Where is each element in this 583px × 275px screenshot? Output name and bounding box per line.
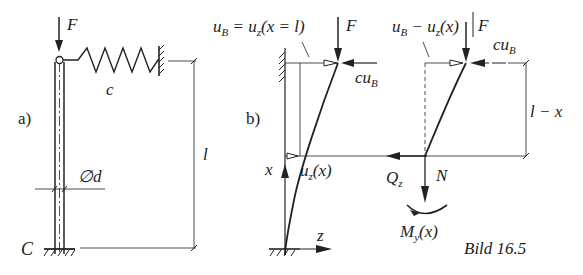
deflection-curve	[285, 63, 338, 255]
force-label-a: F	[66, 15, 78, 34]
moment-arrow-icon	[407, 205, 447, 216]
spring-force-arrow-icon	[470, 59, 485, 67]
diameter-label: ∅d	[78, 167, 102, 186]
fixed-support-icon	[269, 245, 332, 256]
diagram-canvas: F c l a)	[0, 0, 583, 275]
displacement-arrow-icon	[324, 60, 337, 66]
segment-length-label: l − x	[530, 102, 563, 121]
force-arrow-icon	[334, 17, 342, 62]
part-b-label: b)	[246, 109, 260, 128]
figure-caption: Bild 16.5	[464, 239, 526, 258]
hinge-icon	[56, 57, 63, 64]
x-axis-arrow-icon	[281, 164, 289, 178]
top-left-annotation: uB = uz(x = l)	[213, 17, 305, 38]
deflection-arrow-icon	[287, 153, 298, 159]
displacement-arrow-icon	[450, 60, 463, 66]
moment-label: My(x)	[399, 222, 438, 243]
base-label: C	[21, 239, 34, 259]
length-label: l	[203, 145, 208, 164]
diameter-dimension	[35, 186, 105, 192]
force-label-b-left: F	[345, 16, 357, 35]
spring-force-left-label: cuB	[355, 68, 378, 89]
force-arrow-icon	[462, 22, 470, 62]
z-axis-arrow-icon	[316, 245, 332, 253]
part-a-label: a)	[18, 109, 31, 128]
length-dimension	[80, 58, 197, 251]
spring-label: c	[106, 80, 114, 99]
force-label-b-right: F	[477, 16, 489, 35]
z-axis-label: z	[316, 226, 324, 245]
shear-label: Qz	[386, 168, 403, 189]
normal-label: N	[435, 166, 449, 185]
top-right-annotation: uB − uz(x)	[392, 17, 459, 38]
part-a: F c l a)	[18, 15, 208, 259]
part-b: b) uB = uz(x = l) F cuB	[213, 12, 563, 258]
shear-arrow-icon	[386, 152, 400, 160]
spring-force-arrow-icon	[341, 59, 354, 67]
column	[55, 57, 64, 255]
spring-icon	[63, 45, 164, 76]
leader-line	[302, 42, 309, 57]
x-axis-label: x	[264, 160, 273, 179]
deflection-curve-segment	[425, 63, 466, 156]
normal-force-arrow-icon	[421, 156, 429, 203]
deflection-label: uz(x)	[300, 161, 332, 182]
wall-support-icon	[279, 48, 285, 255]
force-arrow-icon	[55, 17, 63, 52]
spring-force-right-label: cuB	[493, 35, 516, 56]
